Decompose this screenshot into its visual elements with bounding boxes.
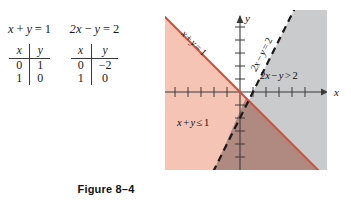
value-table-1: x y 0 1 1 0: [9, 44, 50, 85]
equation-2-lhs-a: 2x: [69, 22, 82, 36]
x-axis-label: x: [334, 86, 339, 98]
table-1-header-y: y: [30, 44, 51, 59]
region-label-pink: x+y≤1: [177, 117, 209, 128]
equation-1-operator: +: [14, 22, 26, 36]
pink-label-rhs: 1: [204, 117, 209, 128]
equation-1-equals: =: [32, 22, 44, 36]
y-axis-arrow: [237, 15, 244, 23]
gray-label-rhs: 2: [292, 70, 297, 81]
table-2-r1-x: 1: [71, 72, 92, 85]
table-1-r0-y: 1: [30, 59, 51, 73]
region-label-gray: 2x−y>2: [260, 70, 298, 81]
value-table-2: x y 0 −2 1 0: [71, 44, 119, 85]
table-row: 0 −2: [71, 59, 119, 73]
equation-1-rhs: 1: [45, 22, 52, 36]
table-header-row: x y: [71, 44, 119, 59]
pink-label-a: x: [177, 117, 182, 128]
table-header-row: x y: [9, 44, 50, 59]
table-row: 1 0: [71, 72, 119, 85]
pink-label-op: +: [182, 117, 191, 128]
table-2-header-x: x: [71, 44, 92, 59]
gray-label-op: −: [270, 70, 279, 81]
gray-label-a: 2x: [260, 70, 270, 81]
value-table-block-2: 2x−y=2 x y 0 −2 1 0: [69, 22, 119, 85]
table-2-r0-y: −2: [91, 59, 118, 73]
equation-2: 2x−y=2: [69, 22, 119, 37]
table-row: 1 0: [9, 72, 50, 85]
table-1-r1-x: 1: [9, 72, 30, 85]
table-1-r0-x: 0: [9, 59, 30, 73]
equation-1: x+y=1: [8, 22, 51, 37]
figure-caption: Figure 8–4: [0, 183, 212, 195]
gray-label-b: y: [279, 70, 284, 81]
table-1-header-x: x: [9, 44, 30, 59]
y-axis-label: y: [245, 12, 250, 24]
value-tables-group: x+y=1 x y 0 1 1 0 2x−y=2: [8, 22, 120, 85]
figure-8-4: x+y=1 x y 0 1 1 0 2x−y=2: [0, 0, 351, 205]
table-2-header-y: y: [91, 44, 118, 59]
equation-2-operator: −: [82, 22, 94, 36]
table-2-r1-y: 0: [91, 72, 118, 85]
graph-panel: y x+y=1 2x−y=2 2x−y>2 x+y≤1: [165, 10, 327, 170]
value-table-block-1: x+y=1 x y 0 1 1 0: [8, 22, 51, 85]
pink-label-rel: ≤: [195, 117, 204, 128]
equation-2-equals: =: [100, 22, 112, 36]
table-row: 0 1: [9, 59, 50, 73]
table-1-r1-y: 0: [30, 72, 51, 85]
table-2-r0-x: 0: [71, 59, 92, 73]
equation-2-rhs: 2: [113, 22, 120, 36]
